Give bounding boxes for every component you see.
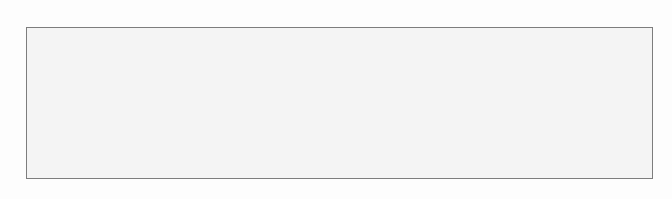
ecg-page	[0, 0, 672, 199]
ecg-grid-paper	[26, 27, 652, 178]
ecg-chart	[0, 0, 672, 199]
